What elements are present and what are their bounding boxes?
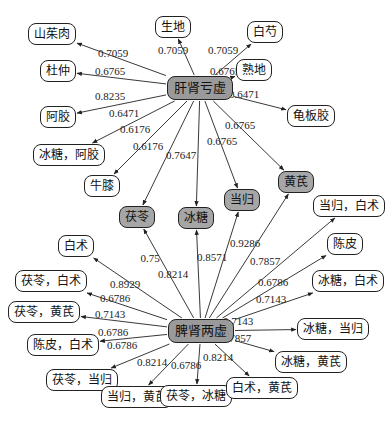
- edge-weight-label: 0.7647: [166, 149, 196, 161]
- hub-node: 肝肾亏虚: [167, 76, 233, 100]
- herb-node: 生地: [155, 16, 191, 38]
- edge-weight-label: 0.8214: [158, 268, 188, 280]
- herb-node: 山茱肉: [28, 23, 76, 45]
- edge-arrow: [235, 330, 296, 331]
- herb-node: 当归，白术: [313, 195, 385, 217]
- herb-node: 冰糖，白术: [312, 270, 384, 292]
- herb-node: 牛膝: [84, 175, 120, 197]
- edge-weight-label: 0.7059: [208, 44, 238, 56]
- herb-node: 当归: [224, 189, 260, 211]
- edge-weight-label: 0.6176: [120, 123, 150, 135]
- edge-weight-label: 0.6176: [133, 140, 163, 152]
- herb-node: 茯苓: [119, 206, 155, 228]
- edge-weight-label: 0.6786: [100, 292, 130, 304]
- herb-node: 黄芪: [278, 171, 314, 193]
- herb-node: 熟地: [236, 59, 272, 81]
- edge-weight-label: 0.8214: [203, 351, 233, 363]
- edge-arrow: [196, 101, 199, 206]
- herb-node: 冰糖，当归: [297, 318, 369, 340]
- herb-node: 白术，黄芪: [226, 377, 298, 399]
- herb-node: 茯苓，黄芪: [8, 301, 80, 323]
- edge-weight-label: 0.7857: [250, 255, 280, 267]
- herb-node: 茯苓，冰糖: [160, 385, 232, 407]
- edge-weight-label: 0.8235: [95, 90, 125, 102]
- edge-weight-label: 0.6471: [109, 107, 139, 119]
- edge-weight-label: 0.6786: [107, 339, 137, 351]
- edge-weight-label: 0.6786: [98, 326, 128, 338]
- edge-weight-label: 0.8929: [110, 278, 140, 290]
- herb-node: 陈皮，白术: [27, 334, 99, 356]
- edge-weight-label: 0.7059: [98, 47, 128, 59]
- edge-weight-label: 0.6471: [229, 88, 259, 100]
- herb-node: 白术: [58, 235, 94, 257]
- edge-weight-label: 0.6765: [225, 119, 255, 131]
- herb-node: 陈皮: [327, 233, 363, 255]
- hub-node: 脾肾两虚: [168, 319, 234, 343]
- edge-weight-label: 0.7059: [158, 44, 188, 56]
- edge-weight-label: 0.8571: [197, 251, 227, 263]
- edge-weight-label: 0.6786: [258, 276, 288, 288]
- herb-node: 冰糖，阿胶: [33, 144, 105, 166]
- edge-weight-label: 0.9286: [230, 237, 260, 249]
- herb-node: 杜仲: [40, 60, 76, 82]
- edge-weight-label: 0.6765: [207, 135, 237, 147]
- herb-node: 冰糖: [178, 207, 214, 229]
- edge-weight-label: 0.7143: [95, 308, 125, 320]
- edge-weight-label: 0.75: [140, 252, 159, 264]
- herb-node: 龟板胶: [287, 105, 335, 127]
- edge-weight-label: 0.6765: [95, 65, 125, 77]
- edge-weight-label: 0.7143: [256, 293, 286, 305]
- herb-node: 茯苓，白术: [15, 270, 87, 292]
- herb-node: 阿胶: [40, 106, 76, 128]
- edge-weight-label: 0.8214: [137, 356, 167, 368]
- herb-node: 白芍: [247, 21, 283, 43]
- edge-arrow: [197, 230, 201, 318]
- herb-node: 冰糖，黄芪: [275, 351, 347, 373]
- edge-weight-label: 0.6786: [171, 359, 201, 371]
